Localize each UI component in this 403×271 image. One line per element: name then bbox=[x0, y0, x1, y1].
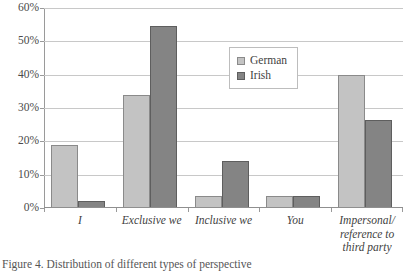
y-axis-tick-label: 40% bbox=[3, 69, 39, 81]
x-axis-label-line: You bbox=[259, 214, 331, 228]
figure-caption: Figure 4. Distribution of different type… bbox=[2, 258, 402, 271]
x-axis-label-exclusive-we: Exclusive we bbox=[116, 214, 188, 228]
legend-label-irish: Irish bbox=[250, 69, 271, 82]
chart-legend: German Irish bbox=[229, 47, 298, 89]
legend-swatch-irish-icon bbox=[237, 72, 245, 80]
legend-label-german: German bbox=[250, 54, 287, 67]
bar-german bbox=[123, 95, 150, 208]
gridline bbox=[44, 8, 403, 9]
y-axis-tick-label: 20% bbox=[3, 135, 39, 147]
y-axis-tick-label: 30% bbox=[3, 102, 39, 114]
x-axis-label-line: Exclusive we bbox=[116, 214, 188, 228]
bar-german bbox=[338, 75, 365, 208]
legend-item-german: German bbox=[237, 53, 287, 68]
legend-item-irish: Irish bbox=[237, 68, 287, 83]
y-axis-tick-label: 0% bbox=[3, 202, 39, 214]
x-axis-line bbox=[44, 207, 403, 208]
x-axis-tick-mark bbox=[116, 208, 117, 212]
x-axis-label-impersonal: Impersonal/reference tothird party bbox=[331, 214, 403, 255]
x-axis-label-you: You bbox=[259, 214, 331, 228]
y-axis-tick-label: 60% bbox=[3, 2, 39, 14]
y-axis-tick-label: 50% bbox=[3, 35, 39, 47]
x-axis-label-line: reference to bbox=[331, 228, 403, 242]
x-axis-label-line: third party bbox=[331, 241, 403, 255]
bar-irish bbox=[365, 120, 392, 208]
gridline bbox=[44, 41, 403, 42]
legend-swatch-german-icon bbox=[237, 57, 245, 65]
bar-irish bbox=[222, 161, 249, 208]
x-axis-label-inclusive-we: Inclusive we bbox=[188, 214, 260, 228]
x-axis-label-line: Inclusive we bbox=[188, 214, 260, 228]
chart-plot-region: 0%10%20%30%40%50%60% IExclusive weInclus… bbox=[0, 0, 403, 246]
plot-canvas bbox=[44, 8, 403, 208]
x-axis-tick-mark bbox=[188, 208, 189, 212]
x-axis-tick-mark bbox=[44, 208, 45, 212]
x-axis-tick-mark bbox=[331, 208, 332, 212]
x-axis-label-line: I bbox=[44, 214, 116, 228]
x-axis-tick-mark bbox=[259, 208, 260, 212]
bar-german bbox=[51, 145, 78, 208]
x-axis-label-i: I bbox=[44, 214, 116, 228]
bar-irish bbox=[150, 26, 177, 208]
y-axis-tick-label: 10% bbox=[3, 169, 39, 181]
x-axis-label-line: Impersonal/ bbox=[331, 214, 403, 228]
